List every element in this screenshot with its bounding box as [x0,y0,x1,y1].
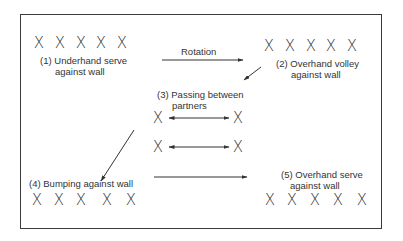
arrows-layer [0,0,403,241]
arrow-3-to-4 [101,130,134,181]
arrow-2-to-3 [244,67,261,80]
